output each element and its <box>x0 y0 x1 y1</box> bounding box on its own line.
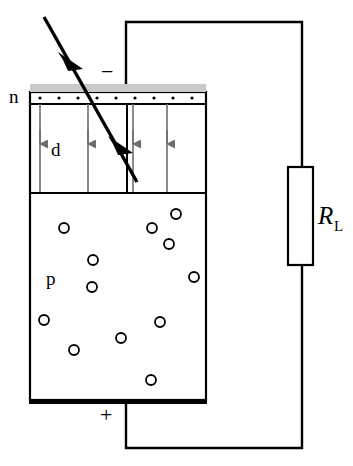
top-metal-contact <box>30 84 206 92</box>
label-depletion-width: d <box>51 139 61 160</box>
light-ray-arrowhead-upper <box>58 52 83 71</box>
donor-dot <box>171 96 174 99</box>
label-negative-terminal: − <box>101 59 113 84</box>
resistor-label-r: R <box>317 202 333 229</box>
donor-dot <box>133 96 136 99</box>
donor-dot <box>114 96 117 99</box>
donor-dot <box>152 96 155 99</box>
label-n-layer: n <box>9 86 19 107</box>
donor-dot <box>190 96 193 99</box>
photodiode-diagram: R L <box>0 0 353 466</box>
resistor-label-subscript: L <box>334 218 343 234</box>
diagram-canvas: R L <box>0 0 353 466</box>
label-p-layer: p <box>46 268 56 289</box>
donor-dot <box>95 96 98 99</box>
donor-dot <box>38 96 41 99</box>
donor-dot <box>57 96 60 99</box>
bottom-electrode <box>29 399 207 404</box>
load-resistor-body <box>288 167 313 265</box>
label-positive-terminal: + <box>100 402 112 427</box>
donor-dot <box>76 96 79 99</box>
